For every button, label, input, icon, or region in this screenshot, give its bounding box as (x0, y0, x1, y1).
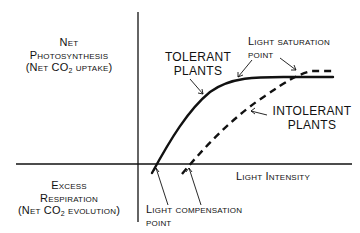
y-positive-line1: Net (2, 36, 136, 49)
y-positive-line3: (Net CO2 uptake) (2, 61, 136, 75)
intolerant-plants-label: INTOLERANT PLANTS (266, 105, 358, 133)
y-negative-line3: (Net CO2 evolution) (2, 204, 136, 218)
x-axis-label: Light Intensity (218, 170, 328, 183)
y-negative-line2: Respiration (2, 192, 136, 205)
tolerant-plants-label: TOLERANT PLANTS (158, 51, 238, 79)
y-axis-positive-label: Net Photosynthesis (Net CO2 uptake) (2, 36, 136, 75)
y-positive-line2: Photosynthesis (2, 49, 136, 62)
light-saturation-label: Light saturation point (248, 35, 360, 60)
y-axis-negative-label: Excess Respiration (Net CO2 evolution) (2, 179, 136, 218)
light-compensation-label: Light compensation point (146, 203, 286, 228)
y-negative-line1: Excess (2, 179, 136, 192)
